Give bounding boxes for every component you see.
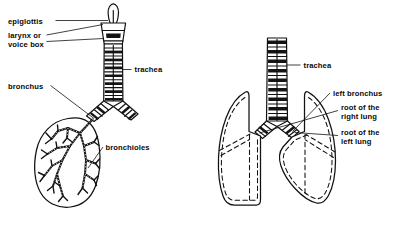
bronchus-leader — [51, 86, 95, 119]
larynx-shape — [101, 23, 126, 44]
label-larynx-line2: voice box — [8, 40, 45, 49]
larynx-leader-lower — [47, 39, 104, 42]
respiratory-system-figure: epiglottis larynx or voice box bronchus … — [0, 0, 409, 241]
anatomy-diagram-canvas: epiglottis larynx or voice box bronchus … — [0, 0, 409, 241]
trachea-right-cartilage-rings — [268, 40, 288, 121]
trachea-left-shape — [104, 44, 123, 101]
larynx-leader-upper — [47, 25, 104, 36]
label-root-left-lung-line2: left lung — [341, 137, 372, 146]
trachea-right-shape — [267, 38, 288, 121]
label-root-right-lung-line2: right lung — [341, 112, 377, 121]
right-lung-shape — [218, 92, 260, 205]
label-trachea-left: trachea — [135, 65, 163, 74]
label-left-bronchus: left bronchus — [333, 89, 382, 98]
bronchi-fork-left-panel — [87, 101, 139, 122]
label-epiglottis: epiglottis — [8, 17, 43, 26]
label-trachea-right: trachea — [304, 61, 332, 70]
label-bronchioles: bronchioles — [106, 143, 150, 152]
right-panel-group: trachea left bronchus root of the right … — [218, 38, 382, 205]
left-panel-group: epiglottis larynx or voice box bronchus … — [8, 4, 163, 207]
label-bronchus: bronchus — [8, 82, 43, 91]
